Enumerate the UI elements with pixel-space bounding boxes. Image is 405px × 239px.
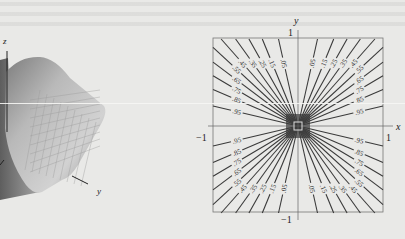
- contour-label: .95: [354, 136, 365, 146]
- x-max-tick-label: 1: [386, 132, 391, 143]
- y-min-tick-label: −1: [281, 214, 292, 225]
- z-axis-label: z: [2, 36, 7, 46]
- contour-line: [213, 126, 298, 176]
- surface-plot-3d: z y: [0, 0, 200, 239]
- contour-line: [298, 126, 383, 176]
- x-axis-label: x: [395, 121, 401, 132]
- contour-line: [298, 39, 347, 126]
- contour-line: [249, 126, 298, 213]
- contour-label: .05: [308, 58, 318, 69]
- surface-body: [5, 57, 105, 193]
- contour-line: [298, 76, 383, 126]
- scan-seam: [0, 103, 405, 104]
- contour-line: [213, 76, 298, 126]
- contour-label: .05: [280, 183, 290, 194]
- y-axis-label-3d: y: [96, 186, 101, 196]
- y-axis-label: y: [293, 15, 299, 26]
- contour-label: .95: [232, 107, 243, 117]
- contour-line: [249, 39, 298, 126]
- y-max-tick-label: 1: [288, 27, 293, 38]
- x-min-tick-label: −1: [196, 132, 207, 143]
- contour-plot: .05.05.05.05.15.15.15.15.25.25.25.25.35.…: [195, 0, 405, 239]
- contour-line: [298, 126, 347, 213]
